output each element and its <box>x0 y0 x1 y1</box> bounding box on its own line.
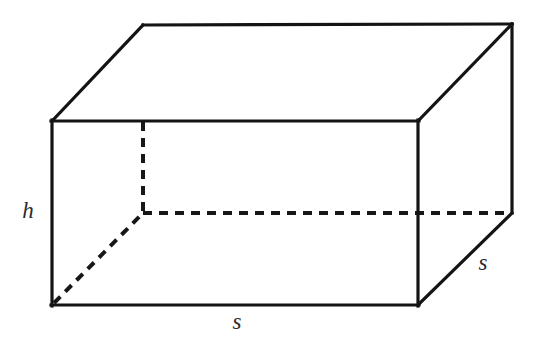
hidden-edge-group <box>54 122 512 303</box>
visible-edge-group <box>51 24 512 306</box>
height-label: h <box>22 198 34 223</box>
edge-top-right-receding <box>418 24 512 121</box>
edge-top-left-receding <box>52 25 143 121</box>
edge-bottom-left-receding-hidden <box>54 213 143 303</box>
rectangular-prism-figure: h s s <box>0 0 538 345</box>
base-side-label: s <box>479 250 488 275</box>
edge-bottom-right-receding <box>418 213 512 305</box>
edge-top-face-back <box>143 24 512 25</box>
prism-drawing-canvas: h s s <box>0 0 538 345</box>
base-front-label: s <box>233 309 242 334</box>
